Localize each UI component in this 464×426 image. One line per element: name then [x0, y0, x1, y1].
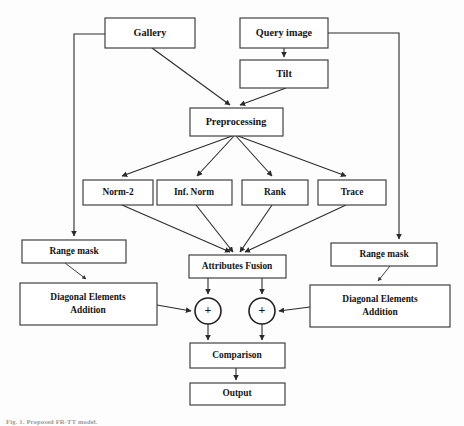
node-trace-label: Trace [341, 187, 364, 197]
node-range-mask-right[interactable]: Range mask [331, 243, 437, 266]
node-gallery[interactable]: Gallery [105, 18, 195, 48]
node-attributes-fusion[interactable]: Attributes Fusion [189, 255, 286, 278]
flowchart-canvas: Gallery Query image Tilt Preprocessing N… [0, 0, 464, 426]
node-tilt-label: Tilt [276, 68, 292, 79]
edge-gallery-to-preprocessing [152, 48, 230, 105]
edge-tilt-to-preprocessing [240, 88, 286, 105]
node-diag-left-label-line2: Addition [70, 305, 106, 315]
node-sum-left[interactable]: + [195, 298, 221, 324]
node-diag-right-label-line2: Addition [362, 307, 398, 317]
node-gallery-label: Gallery [134, 27, 167, 38]
node-tilt[interactable]: Tilt [240, 60, 328, 88]
edge-gallery-to-range-mask-left [74, 34, 105, 236]
node-rank[interactable]: Rank [242, 180, 308, 205]
node-range-mask-left-label: Range mask [49, 246, 99, 256]
edge-diag-right-to-sum-right [279, 307, 310, 311]
edge-norm2-to-attributes-fusion [122, 205, 230, 252]
edge-layer [65, 33, 399, 380]
node-diagonal-elements-addition-right[interactable]: Diagonal Elements Addition [310, 285, 450, 327]
node-comparison[interactable]: Comparison [190, 343, 285, 368]
node-inf-norm[interactable]: Inf. Norm [157, 180, 232, 205]
node-diagonal-elements-addition-left[interactable]: Diagonal Elements Addition [20, 283, 157, 325]
node-range-mask-left[interactable]: Range mask [22, 240, 126, 263]
node-diag-left-label-line1: Diagonal Elements [50, 292, 126, 302]
node-norm-2[interactable]: Norm-2 [83, 180, 153, 205]
edge-rank-to-attributes-fusion [240, 205, 272, 252]
node-sum-right[interactable]: + [249, 298, 275, 324]
edge-range-mask-left-to-diag-left [65, 263, 86, 279]
node-output[interactable]: Output [190, 383, 285, 405]
edge-range-mask-right-to-diag-right [378, 266, 390, 281]
node-sum-left-label: + [205, 303, 212, 317]
node-trace[interactable]: Trace [318, 180, 386, 205]
node-norm-2-label: Norm-2 [102, 187, 134, 197]
node-rank-label: Rank [264, 187, 287, 197]
node-range-mask-right-label: Range mask [359, 249, 409, 259]
edge-diag-left-to-sum-left [157, 305, 191, 311]
node-preprocessing-label: Preprocessing [206, 116, 267, 127]
node-query-image[interactable]: Query image [240, 18, 328, 48]
node-attributes-fusion-label: Attributes Fusion [202, 261, 273, 271]
figure-caption: Fig. 1. Proposed FR-TT model. [6, 418, 98, 425]
node-output-label: Output [222, 388, 252, 398]
node-preprocessing[interactable]: Preprocessing [190, 108, 283, 136]
node-inf-norm-label: Inf. Norm [174, 187, 214, 197]
node-comparison-label: Comparison [212, 350, 262, 360]
node-query-image-label: Query image [256, 27, 313, 38]
flowchart-diagram: Gallery Query image Tilt Preprocessing N… [0, 0, 464, 426]
node-sum-right-label: + [259, 303, 266, 317]
node-diag-right-label-line1: Diagonal Elements [342, 294, 418, 304]
